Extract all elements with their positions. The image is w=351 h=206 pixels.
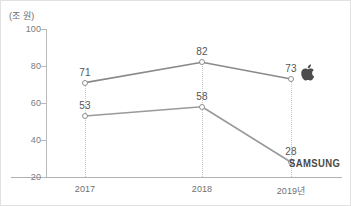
data-point-label: 82 bbox=[196, 46, 208, 57]
y-tick-label: 60 bbox=[15, 98, 41, 108]
chart-figure: (조 원) 20406080100 201720182019년 71827353… bbox=[0, 0, 351, 206]
x-tick-label: 2018 bbox=[192, 184, 212, 194]
data-point-marker bbox=[82, 80, 88, 86]
y-tick-mark bbox=[41, 103, 46, 104]
data-point-label: 58 bbox=[196, 91, 208, 102]
series-lines bbox=[1, 1, 351, 206]
y-tick-mark bbox=[41, 140, 46, 141]
gridline bbox=[202, 62, 203, 177]
data-point-marker bbox=[82, 113, 88, 119]
data-point-label: 28 bbox=[285, 146, 297, 157]
series-line-samsung bbox=[85, 107, 291, 163]
samsung-wordmark: SAMSUNG bbox=[289, 158, 340, 169]
data-point-marker bbox=[199, 59, 205, 65]
y-axis-line bbox=[46, 29, 47, 177]
data-point-marker bbox=[288, 76, 294, 82]
apple-logo bbox=[300, 63, 316, 82]
data-point-marker bbox=[199, 104, 205, 110]
y-tick-label: 20 bbox=[15, 172, 41, 182]
y-axis-unit-label: (조 원) bbox=[9, 9, 35, 22]
y-tick-mark bbox=[41, 177, 46, 178]
data-point-label: 71 bbox=[79, 67, 91, 78]
x-tick-label: 2017 bbox=[75, 184, 95, 194]
y-tick-label: 40 bbox=[15, 135, 41, 145]
y-tick-mark bbox=[41, 29, 46, 30]
series-line-apple bbox=[85, 62, 291, 82]
y-tick-label: 80 bbox=[15, 61, 41, 71]
gridline bbox=[85, 83, 86, 177]
data-point-label: 53 bbox=[79, 100, 91, 111]
data-point-label: 73 bbox=[285, 63, 297, 74]
y-tick-mark bbox=[41, 66, 46, 67]
x-tick-label: 2019년 bbox=[277, 184, 306, 197]
y-tick-label: 100 bbox=[15, 24, 41, 34]
x-axis-line bbox=[11, 177, 342, 178]
